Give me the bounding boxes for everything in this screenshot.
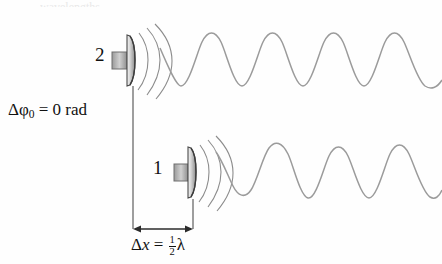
speaker-1 [174,147,196,198]
fraction-numerator: 1 [169,235,176,247]
fraction-denominator: 2 [169,247,176,258]
phase-difference-label: Δφ0 = 0 rad [8,101,87,121]
one-half-fraction: 1 2 [169,235,176,258]
diagram-canvas [0,0,442,264]
separation-dimension-arrow [133,226,193,233]
speaker-1-label: 1 [153,158,163,177]
separation-variable: x [142,235,150,254]
lambda-symbol: λ [177,235,185,254]
phase-delta-symbol: Δφ [8,100,29,119]
wave-from-speaker-2 [160,33,442,88]
speaker-2 [112,35,135,86]
path-difference-label: Δx = 1 2 λ [131,235,185,258]
separation-delta-symbol: Δ [131,235,142,254]
wave-from-speaker-1 [216,143,442,198]
physics-figure-two-speakers: wavelengths [0,0,442,264]
separation-equals: = [154,235,164,254]
wavefronts-speaker-2 [138,24,172,99]
phase-subscript: 0 [29,108,35,121]
speaker-2-label: 2 [95,45,105,64]
phase-value: = 0 rad [39,100,87,119]
